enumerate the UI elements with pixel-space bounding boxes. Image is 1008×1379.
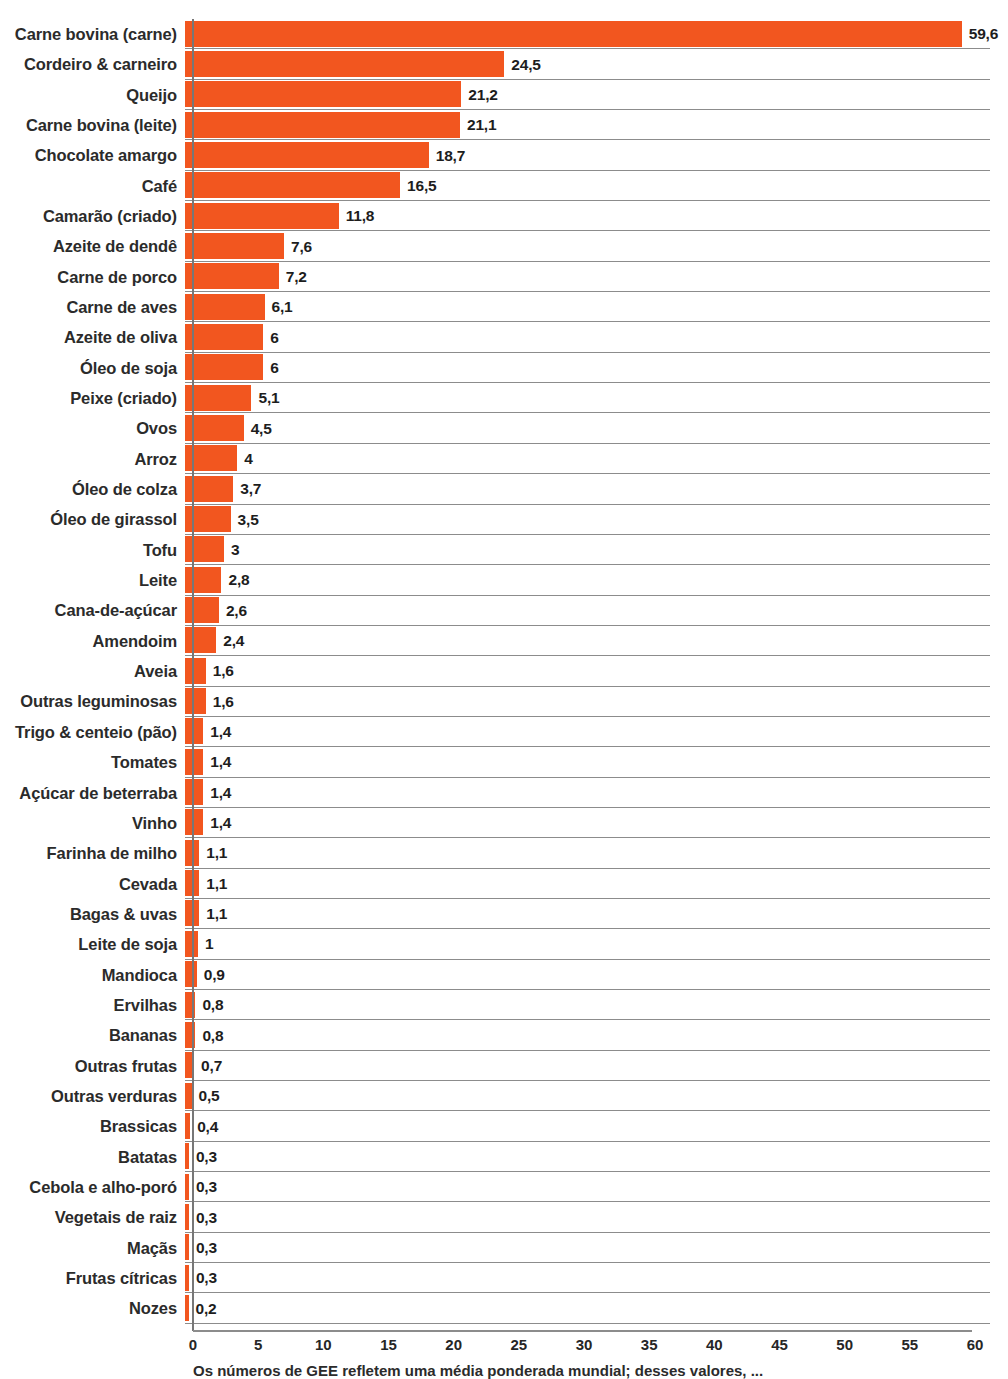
bar-value-label: 0,3	[196, 1269, 217, 1287]
plot-cell: 0,2	[185, 1293, 1008, 1323]
chart-row: Azeite de dendê7,6	[0, 231, 1008, 261]
chart-row: Ervilhas0,8	[0, 990, 1008, 1020]
chart-row: Cana-de-açúcar2,6	[0, 596, 1008, 626]
category-label: Brassicas	[0, 1111, 185, 1141]
bar	[185, 112, 460, 138]
bar-value-label: 0,7	[201, 1057, 222, 1075]
chart-row: Brassicas0,4	[0, 1111, 1008, 1141]
plot-cell: 0,4	[185, 1111, 1008, 1141]
bar-value-label: 0,8	[202, 1027, 223, 1045]
category-label: Trigo & centeio (pão)	[0, 717, 185, 747]
category-label: Azeite de oliva	[0, 322, 185, 352]
plot-cell: 1,1	[185, 899, 1008, 929]
bar-value-label: 1,4	[210, 814, 231, 832]
bar	[185, 627, 216, 653]
bar-value-label: 18,7	[436, 147, 465, 165]
category-label: Camarão (criado)	[0, 201, 185, 231]
chart-row: Aveia1,6	[0, 656, 1008, 686]
category-label: Leite	[0, 565, 185, 595]
category-label: Café	[0, 171, 185, 201]
bar	[185, 809, 203, 835]
chart-row: Carne bovina (carne)59,6	[0, 19, 1008, 49]
plot-cell: 0,9	[185, 960, 1008, 990]
bar	[185, 354, 263, 380]
category-label: Carne bovina (carne)	[0, 19, 185, 49]
chart-row: Maçãs0,3	[0, 1233, 1008, 1263]
bar-value-label: 5,1	[258, 389, 279, 407]
bar-value-label: 21,2	[468, 86, 497, 104]
bar-value-label: 1,1	[206, 875, 227, 893]
bar	[185, 294, 265, 320]
plot-cell: 6	[185, 322, 1008, 352]
bar-value-label: 0,8	[202, 996, 223, 1014]
category-label: Aveia	[0, 656, 185, 686]
bar	[185, 597, 219, 623]
bar	[185, 21, 962, 47]
plot-cell: 16,5	[185, 171, 1008, 201]
bar-value-label: 1,4	[210, 753, 231, 771]
bar-value-label: 24,5	[511, 56, 540, 74]
bar-value-label: 3	[231, 541, 239, 559]
bar-value-label: 1,1	[206, 844, 227, 862]
bar	[185, 1022, 195, 1048]
plot-cell: 5,1	[185, 383, 1008, 413]
chart-row: Ovos4,5	[0, 413, 1008, 443]
plot-cell: 21,1	[185, 110, 1008, 140]
y-axis-baseline	[192, 19, 194, 1331]
bar-value-label: 0,3	[196, 1178, 217, 1196]
category-label: Vegetais de raiz	[0, 1202, 185, 1232]
plot-cell: 7,2	[185, 262, 1008, 292]
bar-value-label: 3,5	[238, 511, 259, 529]
bar-value-label: 59,6	[969, 25, 998, 43]
category-label: Farinha de milho	[0, 838, 185, 868]
x-tick-label: 0	[189, 1336, 197, 1353]
bar-value-label: 4	[244, 450, 252, 468]
category-label: Bananas	[0, 1020, 185, 1050]
chart-row: Batatas0,3	[0, 1142, 1008, 1172]
plot-cell: 1,6	[185, 656, 1008, 686]
bar-value-label: 0,3	[196, 1239, 217, 1257]
chart-row: Tofu3	[0, 535, 1008, 565]
bar	[185, 172, 400, 198]
bar-value-label: 1,4	[210, 784, 231, 802]
bar	[185, 1143, 189, 1169]
chart-row: Nozes0,2	[0, 1293, 1008, 1323]
bar-value-label: 2,4	[223, 632, 244, 650]
plot-cell: 1,4	[185, 747, 1008, 777]
category-label: Arroz	[0, 444, 185, 474]
bar-value-label: 11,8	[346, 207, 375, 225]
plot-cell: 18,7	[185, 140, 1008, 170]
plot-cell: 1,1	[185, 838, 1008, 868]
category-label: Cana-de-açúcar	[0, 596, 185, 626]
chart-row: Outras leguminosas1,6	[0, 687, 1008, 717]
bar-value-label: 1,4	[210, 723, 231, 741]
category-label: Ervilhas	[0, 990, 185, 1020]
bar	[185, 324, 263, 350]
bar	[185, 1265, 189, 1291]
plot-cell: 2,8	[185, 565, 1008, 595]
bar	[185, 567, 221, 593]
bar-value-label: 6,1	[272, 298, 293, 316]
x-tick-label: 40	[706, 1336, 723, 1353]
bar-value-label: 0,4	[197, 1118, 218, 1136]
plot-cell: 0,8	[185, 1020, 1008, 1050]
plot-cell: 3,5	[185, 505, 1008, 535]
x-tick-label: 45	[771, 1336, 788, 1353]
plot-cell: 4	[185, 444, 1008, 474]
bar-value-label: 2,6	[226, 602, 247, 620]
chart-row: Cordeiro & carneiro24,5	[0, 49, 1008, 79]
plot-cell: 3	[185, 535, 1008, 565]
category-label: Carne de aves	[0, 292, 185, 322]
plot-cell: 6,1	[185, 292, 1008, 322]
plot-cell: 59,6	[185, 19, 1008, 49]
category-label: Vinho	[0, 808, 185, 838]
plot-cell: 0,3	[185, 1172, 1008, 1202]
bar	[185, 1113, 190, 1139]
bar	[185, 1295, 189, 1321]
category-label: Batatas	[0, 1142, 185, 1172]
plot-cell: 1	[185, 929, 1008, 959]
bar-value-label: 3,7	[240, 480, 261, 498]
bar-value-label: 21,1	[467, 116, 496, 134]
category-label: Nozes	[0, 1293, 185, 1323]
bar-value-label: 1,1	[206, 905, 227, 923]
